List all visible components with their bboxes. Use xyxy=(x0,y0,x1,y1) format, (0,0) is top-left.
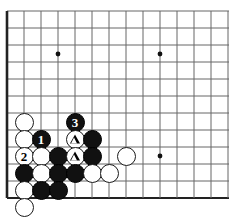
black-stone[interactable] xyxy=(49,164,68,183)
move-number-label: 1 xyxy=(33,131,50,148)
triangle-marker-icon xyxy=(70,135,80,144)
black-stone[interactable] xyxy=(83,147,102,166)
star-point xyxy=(158,52,163,57)
black-stone[interactable] xyxy=(32,181,51,200)
white-stone[interactable] xyxy=(15,130,34,149)
move-stone-2[interactable]: 2 xyxy=(15,147,34,166)
white-stone[interactable] xyxy=(15,198,34,217)
black-stone[interactable] xyxy=(49,147,68,166)
move-number-label: 3 xyxy=(67,114,84,131)
move-stone-1[interactable]: 1 xyxy=(32,130,51,149)
star-point xyxy=(158,154,163,159)
white-stone[interactable] xyxy=(15,181,34,200)
marked-white-stone[interactable] xyxy=(66,147,85,166)
marked-white-stone[interactable] xyxy=(66,130,85,149)
move-number-label: 2 xyxy=(16,148,33,165)
move-stone-3[interactable]: 3 xyxy=(66,113,85,132)
white-stone[interactable] xyxy=(117,147,136,166)
white-stone[interactable] xyxy=(100,164,119,183)
white-stone[interactable] xyxy=(15,113,34,132)
white-stone[interactable] xyxy=(32,164,51,183)
star-point xyxy=(56,52,61,57)
white-stone[interactable] xyxy=(83,164,102,183)
triangle-marker-icon xyxy=(70,152,80,161)
white-stone[interactable] xyxy=(32,147,51,166)
go-board-diagram: 132 xyxy=(0,0,229,222)
black-stone[interactable] xyxy=(66,164,85,183)
black-stone[interactable] xyxy=(15,164,34,183)
black-stone[interactable] xyxy=(49,181,68,200)
black-stone[interactable] xyxy=(83,130,102,149)
